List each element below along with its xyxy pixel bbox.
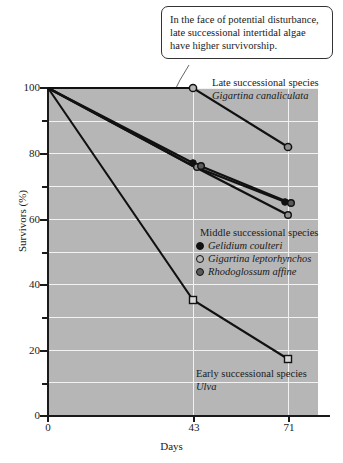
y-tick-20: [40, 350, 47, 352]
early-successional-species: Ulva: [196, 380, 307, 393]
gridline-y-60: [48, 219, 318, 220]
annotation-late-successional: Late successional species Gigartina cana…: [212, 76, 319, 102]
open-circle-icon: [196, 255, 204, 263]
early-successional-title: Early successional species: [196, 367, 307, 380]
middle-successional-title: Middle successional species: [200, 226, 318, 239]
y-tick-10: [42, 383, 47, 385]
x-tick-label-43: 43: [174, 421, 214, 433]
y-tick-label-20: 20: [10, 345, 40, 356]
callout-box: In the face of potential disturbance, la…: [161, 6, 333, 59]
y-tick-40: [40, 284, 47, 286]
gridline-x-43: [193, 88, 194, 415]
gridline-y-90: [48, 121, 318, 122]
y-tick-30: [42, 317, 47, 319]
y-tick-label-100: 100: [10, 82, 40, 93]
y-axis-line: [47, 87, 49, 416]
x-tick-label-0: 0: [28, 421, 68, 433]
filled-circle-icon: [196, 242, 204, 250]
y-tick-label-40: 40: [10, 279, 40, 290]
legend-item-gelidium-coulteri: Gelidium coulteri: [196, 239, 318, 252]
legend-item-gigartina-leptorhynchos: Gigartina leptorhynchos: [196, 252, 318, 265]
legend-label-rhodoglossum-affine: Rhodoglossum affine: [208, 265, 296, 278]
gridline-y-40: [48, 284, 318, 285]
legend-label-gigartina-leptorhynchos: Gigartina leptorhynchos: [208, 252, 311, 265]
annotation-early-successional: Early successional species Ulva: [196, 367, 307, 393]
y-tick-label-0: 0: [10, 410, 40, 421]
chart-figure: 100 80 60 40 20 0 0 43 71 Days Survivors…: [0, 0, 343, 463]
y-tick-70: [42, 186, 47, 188]
shaded-circle-icon: [196, 268, 204, 276]
y-tick-100: [40, 87, 47, 89]
callout-text: In the face of potential disturbance, la…: [170, 14, 319, 51]
callout-leader-line: [176, 65, 189, 88]
y-tick-80: [40, 153, 47, 155]
legend-label-gelidium-coulteri: Gelidium coulteri: [208, 239, 282, 252]
gridline-y-20: [48, 350, 318, 351]
y-tick-50: [42, 252, 47, 254]
gridline-y-30: [48, 317, 318, 318]
late-successional-title: Late successional species: [212, 76, 319, 89]
x-axis-line: [40, 415, 330, 417]
legend-item-rhodoglossum-affine: Rhodoglossum affine: [196, 265, 318, 278]
late-successional-species: Gigartina canaliculata: [212, 89, 319, 102]
y-tick-90: [42, 120, 47, 122]
x-tick-label-71: 71: [269, 421, 309, 433]
y-tick-0: [40, 415, 47, 417]
y-axis-title: Survivors (%): [16, 171, 28, 271]
gridline-y-70: [48, 186, 318, 187]
x-axis-title: Days: [0, 440, 343, 452]
y-tick-60: [40, 219, 47, 221]
gridline-y-80: [48, 153, 318, 154]
legend-middle-successional: Middle successional species Gelidium cou…: [196, 226, 318, 278]
y-tick-label-80: 80: [10, 148, 40, 159]
